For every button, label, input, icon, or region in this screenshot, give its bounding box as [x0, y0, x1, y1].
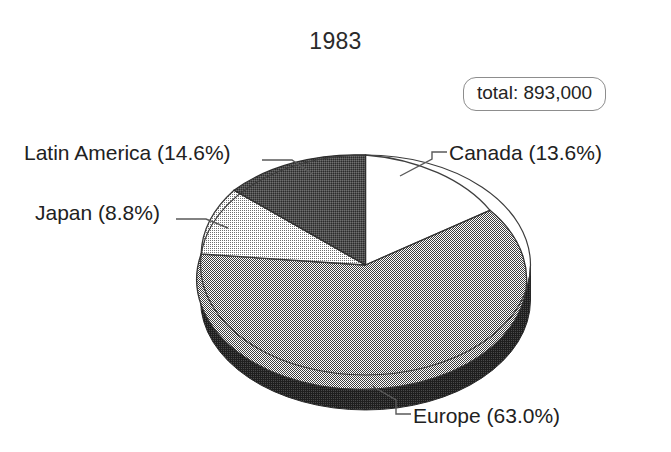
slice-label-latin-america: Latin America (14.6%)	[24, 141, 231, 164]
pie-chart-figure: 1983 total: 893,000	[0, 0, 671, 452]
pie-graphic	[0, 0, 671, 452]
slice-label-europe: Europe (63.0%)	[413, 404, 560, 427]
slice-label-canada: Canada (13.6%)	[449, 141, 602, 164]
slice-label-japan: Japan (8.8%)	[35, 201, 160, 224]
